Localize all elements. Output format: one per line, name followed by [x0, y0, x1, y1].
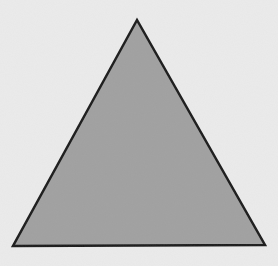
diagram-canvas	[0, 0, 278, 266]
triangle-figure	[0, 0, 278, 266]
paper-texture	[0, 0, 278, 266]
